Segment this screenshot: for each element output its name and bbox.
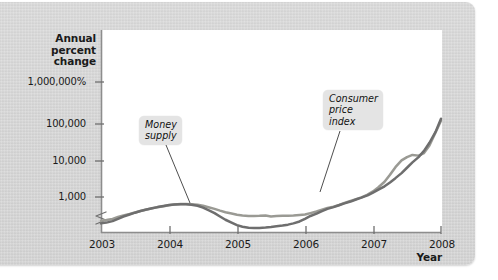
y-axis-ticks [95, 82, 104, 197]
leader-line-money-supply [166, 145, 190, 203]
annotation-money-supply: Money supply [139, 116, 182, 145]
annotation-money-supply-line-2: supply [145, 130, 177, 141]
annotation-consumer-price-index: Consumer price index [323, 90, 383, 130]
annotation-money-supply-line-1: Money [145, 119, 177, 130]
annotation-cpi-line-1: Consumer [329, 93, 378, 104]
chart-canvas [0, 0, 498, 280]
leader-line-cpi [320, 131, 340, 192]
annotation-cpi-line-2: price [329, 104, 378, 115]
chart-figure: Annual percent change Year 1,000,000% 10… [0, 0, 498, 280]
annotation-cpi-line-3: index [329, 116, 378, 127]
